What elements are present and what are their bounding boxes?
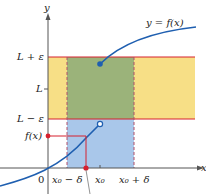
y-axis-label: y (44, 3, 50, 13)
x-pointer-line (86, 170, 90, 194)
x-axis-label: x (201, 163, 206, 173)
l-label: L (36, 84, 43, 94)
origin-label: 0 (38, 175, 44, 185)
x0-plus-delta-label: x₀ + δ (119, 175, 149, 185)
open-circle (97, 121, 102, 126)
x0-label: x₀ (95, 175, 105, 185)
diagram-graphics (0, 0, 206, 194)
limit-point (97, 61, 103, 67)
x0-minus-delta-label: x₀ − δ (52, 175, 82, 185)
fx-point (46, 134, 51, 139)
y-axis-arrow-icon (46, 13, 51, 20)
fx-label: f(x) (25, 131, 42, 141)
lower-epsilon-label: L − ε (17, 114, 44, 124)
x-point (83, 165, 88, 170)
curve-label: y = f(x) (146, 18, 184, 28)
upper-epsilon-label: L + ε (17, 52, 44, 62)
epsilon-delta-diagram: y y = f(x) L + ε L L − ε f(x) 0 x₀ − δ x… (0, 0, 206, 194)
